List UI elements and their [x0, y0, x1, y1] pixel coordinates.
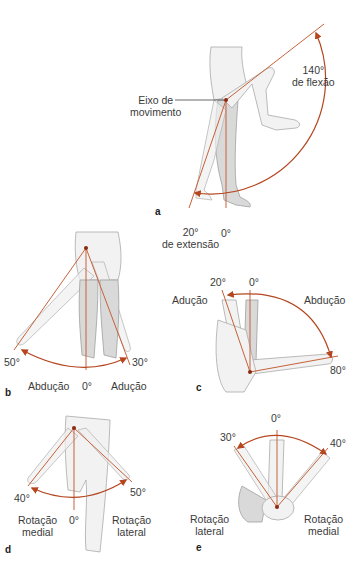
adduction-label-b: Adução — [111, 380, 147, 392]
abduction-label-c: Abdução — [304, 294, 345, 306]
lateral-label-line2-e: lateral — [190, 525, 229, 537]
panel-letter-b: b — [5, 387, 11, 398]
flexion-label: 140° de flexão — [292, 64, 335, 88]
adduction-label-c: Adução — [172, 294, 208, 306]
panel-b-illustration — [14, 232, 130, 370]
pivot-point — [224, 98, 228, 102]
abduction-value-c: 80° — [330, 364, 346, 376]
extension-label: 20° de extensão — [162, 226, 219, 250]
panel-letter-a: a — [155, 206, 161, 217]
adduction-value-b: 30° — [132, 356, 148, 368]
neutral-label-c: 0° — [249, 276, 259, 288]
neutral-label-e: 0° — [271, 412, 281, 424]
abduction-label-b: Abdução — [28, 380, 69, 392]
panel-e-illustration — [234, 430, 330, 522]
pivot-point-c — [248, 370, 252, 374]
abduction-axis-line — [14, 248, 86, 350]
extension-value: 20° — [162, 226, 219, 238]
panel-a-illustration — [175, 24, 326, 208]
flexion-text: de flexão — [292, 76, 335, 88]
axis-of-movement-label: Eixo de movimento — [130, 94, 181, 118]
neutral-label-a: 0° — [221, 227, 231, 239]
flexion-value: 140° — [292, 64, 335, 76]
lateral-rotation-label-e: Rotação lateral — [190, 513, 229, 537]
medial-label-line1-d: Rotação — [18, 514, 57, 526]
left-standing-leg-shape — [79, 280, 98, 358]
adduction-value-c: 20° — [210, 276, 226, 288]
lateral-value-e: 30° — [220, 431, 236, 443]
lateral-rotation-label-d: Rotação lateral — [112, 514, 151, 538]
extension-text: de extensão — [162, 238, 219, 250]
medial-rotation-label-d: Rotação medial — [18, 514, 57, 538]
lateral-label-line1-e: Rotação — [190, 513, 229, 525]
neutral-label-d: 0° — [69, 514, 79, 526]
medial-value-e: 40° — [330, 437, 346, 449]
pivot-point-d — [72, 426, 76, 430]
lateral-value-d: 50° — [130, 486, 146, 498]
panel-letter-e: e — [196, 542, 202, 553]
medial-label-line1-e: Rotação — [304, 513, 343, 525]
panel-letter-c: c — [196, 382, 202, 393]
medial-value-d: 40° — [14, 492, 30, 504]
axis-label-line2: movimento — [130, 106, 181, 118]
pivot-point-e — [275, 505, 279, 509]
medial-label-line2-d: medial — [18, 526, 57, 538]
medial-label-line2-e: medial — [304, 525, 343, 537]
medial-rotation-label-e: Rotação medial — [304, 513, 343, 537]
medial-axis-line-e — [277, 448, 328, 507]
pivot-point-b — [84, 246, 88, 250]
medial-rotated-leg-e-shape — [282, 452, 330, 504]
lateral-label-line2-d: lateral — [112, 526, 151, 538]
axis-label-line1: Eixo de — [130, 94, 181, 106]
panel-letter-d: d — [5, 544, 11, 555]
abduction-value-b: 50° — [4, 356, 20, 368]
neutral-label-b: 0° — [82, 380, 92, 392]
lateral-label-line1-d: Rotação — [112, 514, 151, 526]
